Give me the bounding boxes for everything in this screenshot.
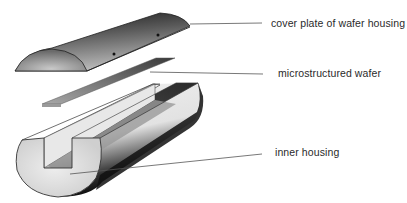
label-microstructured-wafer: microstructured wafer bbox=[278, 67, 381, 79]
leader-line-wafer bbox=[150, 72, 263, 74]
screw-hole bbox=[157, 34, 160, 37]
leader-line-cover bbox=[190, 23, 262, 24]
label-cover-plate: cover plate of wafer housing bbox=[271, 17, 405, 29]
inner-housing bbox=[16, 83, 203, 197]
screw-hole bbox=[113, 53, 116, 56]
exploded-housing-diagram bbox=[0, 0, 407, 203]
label-inner-housing: inner housing bbox=[275, 146, 339, 158]
